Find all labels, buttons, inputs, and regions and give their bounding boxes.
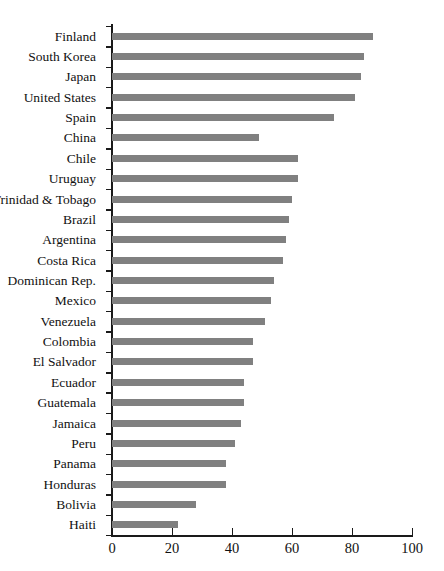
- bar: [112, 379, 244, 386]
- y-axis-label: Peru: [71, 436, 96, 451]
- y-axis-label: Bolivia: [56, 497, 96, 512]
- x-axis-tick: [352, 528, 353, 536]
- y-axis-tick: [106, 230, 113, 231]
- y-axis-tick: [106, 270, 113, 271]
- y-axis-tick: [106, 413, 113, 414]
- bar: [112, 236, 286, 243]
- bar: [112, 257, 283, 264]
- bar: [112, 521, 178, 528]
- y-axis-label: Haiti: [69, 517, 96, 532]
- y-axis-tick: [106, 433, 113, 434]
- y-axis-label: Honduras: [44, 477, 97, 492]
- y-axis-tick: [106, 107, 113, 108]
- y-axis-label: Argentina: [42, 232, 96, 247]
- x-axis-tick: [412, 528, 413, 536]
- y-axis-label: Trinidad & Tobago: [0, 192, 96, 207]
- y-axis-label: Chile: [67, 151, 96, 166]
- bar: [112, 277, 274, 284]
- y-axis-label: Panama: [53, 456, 96, 471]
- bar: [112, 175, 298, 182]
- x-axis-tick-label: 60: [262, 540, 322, 557]
- y-axis-tick: [106, 392, 113, 393]
- y-axis-tick: [106, 291, 113, 292]
- y-axis-label: Ecuador: [51, 375, 96, 390]
- y-axis-tick: [106, 209, 113, 210]
- y-axis-tick: [106, 87, 113, 88]
- bar: [112, 318, 265, 325]
- bar: [112, 33, 373, 40]
- y-axis-tick: [106, 148, 113, 149]
- y-axis-label: Mexico: [55, 293, 96, 308]
- y-axis-tick: [106, 26, 113, 27]
- bar: [112, 399, 244, 406]
- x-axis-tick: [232, 528, 233, 536]
- y-axis-label: Costa Rica: [37, 253, 96, 268]
- x-axis-tick-label: 100: [382, 540, 442, 557]
- y-axis-label: Jamaica: [53, 416, 96, 431]
- y-axis-tick: [106, 250, 113, 251]
- y-axis-tick: [106, 474, 113, 475]
- y-axis-tick: [106, 189, 113, 190]
- x-axis-line: [112, 535, 413, 537]
- y-axis-tick: [106, 331, 113, 332]
- bar: [112, 297, 271, 304]
- y-axis-tick: [106, 311, 113, 312]
- bar: [112, 358, 253, 365]
- y-axis-tick: [106, 494, 113, 495]
- bar: [112, 338, 253, 345]
- y-axis-tick: [106, 169, 113, 170]
- plot-area: [112, 26, 412, 535]
- y-axis-label: Uruguay: [49, 171, 96, 186]
- bar: [112, 155, 298, 162]
- y-axis-tick: [106, 454, 113, 455]
- y-axis-label: Spain: [65, 110, 96, 125]
- y-axis-tick: [106, 46, 113, 47]
- y-axis-label: Venezuela: [41, 314, 96, 329]
- bar: [112, 114, 334, 121]
- x-axis-tick: [112, 528, 113, 536]
- y-axis-label: South Korea: [28, 49, 96, 64]
- y-axis-tick: [106, 352, 113, 353]
- bar: [112, 440, 235, 447]
- bar: [112, 420, 241, 427]
- y-axis-tick: [106, 515, 113, 516]
- x-axis-tick: [292, 528, 293, 536]
- y-axis-label: Dominican Rep.: [8, 273, 96, 288]
- x-axis-tick-label: 40: [202, 540, 262, 557]
- y-axis-tick: [106, 67, 113, 68]
- bar: [112, 53, 364, 60]
- bar: [112, 481, 226, 488]
- bar: [112, 134, 259, 141]
- bar-chart: FinlandSouth KoreaJapanUnited StatesSpai…: [0, 0, 444, 571]
- bar: [112, 216, 289, 223]
- y-axis-label: Brazil: [63, 212, 96, 227]
- y-axis-label: Guatemala: [38, 395, 96, 410]
- y-axis-label: Finland: [55, 29, 96, 44]
- y-axis-label: China: [64, 130, 96, 145]
- x-axis-tick: [172, 528, 173, 536]
- bar: [112, 73, 361, 80]
- bar: [112, 460, 226, 467]
- y-axis-tick: [106, 128, 113, 129]
- x-axis-tick-label: 20: [142, 540, 202, 557]
- y-axis-tick: [106, 372, 113, 373]
- bar: [112, 94, 355, 101]
- x-axis-tick-label: 0: [82, 540, 142, 557]
- y-axis-label: Colombia: [43, 334, 96, 349]
- y-axis-label: United States: [24, 90, 96, 105]
- y-axis-label: Japan: [65, 69, 96, 84]
- x-axis-tick-label: 80: [322, 540, 382, 557]
- y-axis-label: El Salvador: [33, 354, 96, 369]
- bar: [112, 196, 292, 203]
- bar: [112, 501, 196, 508]
